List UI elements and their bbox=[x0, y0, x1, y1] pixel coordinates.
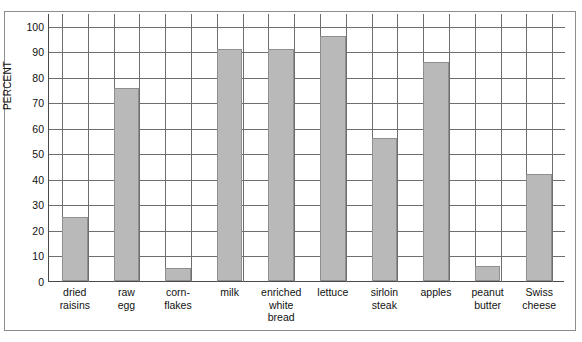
y-tick-label: 0 bbox=[38, 276, 44, 288]
x-tick-label-line: enriched bbox=[255, 286, 307, 299]
y-tick-label: 40 bbox=[32, 174, 44, 186]
y-axis-title: PERCENT bbox=[2, 61, 13, 110]
gridline-vertical bbox=[294, 14, 295, 282]
y-tick-label: 70 bbox=[32, 97, 44, 109]
x-tick-label: milk bbox=[204, 286, 256, 299]
x-tick-label-line: Swiss bbox=[513, 286, 565, 299]
x-tick-label-line: corn- bbox=[152, 286, 204, 299]
gridline-vertical bbox=[552, 14, 553, 282]
gridline-vertical bbox=[397, 14, 398, 282]
x-tick-label-line: steak bbox=[359, 299, 411, 312]
x-tick-label-line: raisins bbox=[49, 299, 101, 312]
x-tick-label: corn-flakes bbox=[152, 286, 204, 311]
x-tick-label: apples bbox=[410, 286, 462, 299]
x-tick-label-line: peanut bbox=[462, 286, 514, 299]
gridline-vertical bbox=[88, 14, 89, 282]
x-tick-label: sirloinsteak bbox=[359, 286, 411, 311]
x-tick-label-line: milk bbox=[204, 286, 256, 299]
y-tick-label: 90 bbox=[32, 46, 44, 58]
y-tick-label: 100 bbox=[26, 21, 44, 33]
chart-title bbox=[0, 0, 582, 1]
x-tick-label: rawegg bbox=[101, 286, 153, 311]
x-tick-label-line: butter bbox=[462, 299, 514, 312]
bar bbox=[526, 174, 552, 281]
y-tick-label: 60 bbox=[32, 123, 44, 135]
x-tick-label: Swisscheese bbox=[513, 286, 565, 311]
x-tick-label-line: cheese bbox=[513, 299, 565, 312]
bar bbox=[62, 217, 88, 281]
gridline-vertical bbox=[165, 14, 166, 282]
x-tick-label-line: dried bbox=[49, 286, 101, 299]
x-tick-label: lettuce bbox=[307, 286, 359, 299]
gridline-vertical bbox=[139, 14, 140, 282]
plot-area: 0102030405060708090100 driedraisinsraweg… bbox=[48, 14, 564, 282]
gridline-vertical bbox=[501, 14, 502, 282]
x-tick-label-line: raw bbox=[101, 286, 153, 299]
gridline-vertical bbox=[191, 14, 192, 282]
bar bbox=[320, 36, 346, 281]
bar bbox=[268, 49, 294, 281]
x-tick-label: peanutbutter bbox=[462, 286, 514, 311]
x-tick-label: driedraisins bbox=[49, 286, 101, 311]
gridline-vertical bbox=[449, 14, 450, 282]
x-tick-label-line: white bbox=[255, 299, 307, 312]
gridline-horizontal bbox=[49, 78, 565, 79]
y-tick-label: 50 bbox=[32, 148, 44, 160]
y-tick-label: 20 bbox=[32, 225, 44, 237]
gridline-vertical bbox=[243, 14, 244, 282]
gridline-horizontal bbox=[49, 52, 565, 53]
bar bbox=[475, 266, 501, 281]
y-tick-label: 30 bbox=[32, 199, 44, 211]
x-tick-label-line: apples bbox=[410, 286, 462, 299]
gridline-vertical bbox=[346, 14, 347, 282]
x-tick-label-line: lettuce bbox=[307, 286, 359, 299]
bar bbox=[114, 88, 140, 281]
bar bbox=[165, 268, 191, 281]
bar bbox=[423, 62, 449, 282]
y-tick-label: 10 bbox=[32, 250, 44, 262]
bar bbox=[217, 49, 243, 281]
bar-chart: PERCENT 0102030405060708090100 driedrais… bbox=[0, 0, 582, 342]
bar bbox=[372, 138, 398, 281]
gridline-horizontal bbox=[49, 27, 565, 28]
x-tick-label-line: bread bbox=[255, 311, 307, 324]
x-tick-label-line: egg bbox=[101, 299, 153, 312]
x-tick-label-line: flakes bbox=[152, 299, 204, 312]
gridline-vertical bbox=[475, 14, 476, 282]
y-tick-label: 80 bbox=[32, 72, 44, 84]
x-tick-label: enrichedwhitebread bbox=[255, 286, 307, 324]
x-tick-label-line: sirloin bbox=[359, 286, 411, 299]
